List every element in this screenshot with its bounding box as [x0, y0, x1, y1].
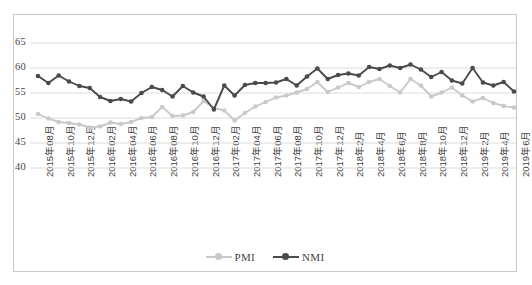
- chart-legend: PMINMI: [0, 249, 530, 263]
- legend-item-nmi[interactable]: NMI: [273, 250, 324, 263]
- x-axis-tick-label: 2017年10月: [311, 125, 325, 177]
- y-axis-tick-label: 45: [4, 136, 26, 147]
- legend-swatch-icon: [206, 252, 232, 262]
- legend-swatch-icon: [273, 252, 299, 262]
- x-axis-tick-label: 2017年04月: [249, 125, 263, 177]
- y-axis-tick-label: 50: [4, 111, 26, 122]
- x-axis-tick-label: 2018年8月: [415, 131, 429, 177]
- x-axis-tick-label: 2017年06月: [270, 125, 284, 177]
- x-axis-tick-label: 2017年08月: [290, 125, 304, 177]
- x-axis-tick-label: 2016年06月: [145, 125, 159, 177]
- x-axis-tick-label: 2018年10月: [435, 125, 449, 177]
- x-axis-tick-label: 2016年04月: [125, 125, 139, 177]
- x-axis-tick-label: 2018年2月: [352, 131, 366, 177]
- x-axis-tick-label: 2018年12月: [456, 125, 470, 177]
- y-axis-tick-label: 55: [4, 86, 26, 97]
- y-axis-tick-label: 65: [4, 36, 26, 47]
- x-axis-tick-label: 2016年02月: [104, 125, 118, 177]
- x-axis-tick-label: 2019年2月: [477, 131, 491, 177]
- x-axis-tick-label: 2019年4月: [497, 131, 511, 177]
- x-axis-tick-label: 2017年12月: [332, 125, 346, 177]
- x-axis-tick-label: 2019年6月: [518, 131, 532, 177]
- y-axis-tick-label: 60: [4, 61, 26, 72]
- x-axis-tick-label: 2015年10月: [63, 125, 77, 177]
- x-axis-tick-label: 2017年02月: [228, 125, 242, 177]
- x-axis-tick-label: 2018年6月: [394, 131, 408, 177]
- legend-label: PMI: [235, 251, 255, 263]
- legend-item-pmi[interactable]: PMI: [206, 250, 255, 263]
- x-axis-tick-label: 2016年12月: [208, 125, 222, 177]
- x-axis-tick-label: 2016年08月: [166, 125, 180, 177]
- x-axis-tick-label: 2015年08月: [42, 125, 56, 177]
- x-axis-tick-label: 2018年4月: [373, 131, 387, 177]
- x-axis-tick-label: 2016年10月: [187, 125, 201, 177]
- x-axis-tick-label: 2015年12月: [83, 125, 97, 177]
- legend-label: NMI: [302, 251, 324, 263]
- y-axis-tick-label: 40: [4, 161, 26, 172]
